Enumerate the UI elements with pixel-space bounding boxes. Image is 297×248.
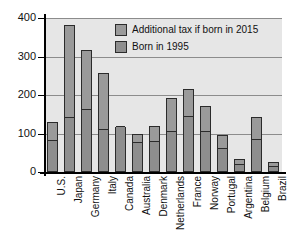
bar-segment-born-1995[interactable] — [150, 141, 159, 171]
x-axis-category-label: Brazil — [278, 176, 288, 201]
x-axis-category-label-wrap: Australia — [142, 176, 152, 215]
bar-segment-born-1995[interactable] — [133, 142, 142, 171]
bar-segment-additional-tax[interactable] — [166, 98, 177, 172]
bar-segment-born-1995[interactable] — [252, 139, 261, 171]
y-axis-line — [44, 14, 46, 176]
bar-segment-additional-tax[interactable] — [81, 50, 92, 172]
y-axis-tick — [38, 57, 44, 58]
bar-segment-born-1995[interactable] — [184, 116, 193, 171]
bar-group[interactable] — [98, 18, 109, 172]
x-axis-category-label: Belgium — [261, 176, 271, 212]
bar-segment-born-1995[interactable] — [99, 129, 108, 171]
x-axis-category-label-wrap: U.S. — [57, 176, 67, 195]
bar-segment-born-1995[interactable] — [167, 131, 176, 171]
y-axis-tick — [38, 172, 44, 173]
x-axis-category-label: U.S. — [57, 176, 67, 195]
x-axis-category-label-wrap: France — [193, 176, 203, 207]
bar-segment-additional-tax[interactable] — [200, 106, 211, 172]
x-axis-category-label: Italy — [108, 176, 118, 194]
bar-segment-additional-tax[interactable] — [234, 159, 245, 172]
bar-segment-additional-tax[interactable] — [268, 162, 279, 172]
legend-label-lower: Born in 1995 — [132, 41, 189, 52]
x-axis-line — [40, 172, 286, 174]
x-axis-category-label-wrap: Portugal — [227, 176, 237, 213]
x-axis-category-label-wrap: Canada — [125, 176, 135, 211]
x-axis-category-label: Canada — [125, 176, 135, 211]
x-axis-category-labels: U.S.JapanGermanyItalyCanadaAustraliaDenm… — [44, 176, 282, 248]
x-axis-category-label: Norway — [210, 176, 220, 210]
legend-label-upper: Additional tax if born in 2015 — [132, 24, 258, 35]
x-axis-category-label-wrap: Japan — [74, 176, 84, 203]
x-axis-category-label-wrap: Norway — [210, 176, 220, 210]
bar-segment-additional-tax[interactable] — [132, 134, 143, 173]
y-axis-tick-label: 0 — [2, 166, 36, 177]
x-axis-category-label-wrap: Netherlands — [176, 176, 186, 230]
x-axis-category-label: Portugal — [227, 176, 237, 213]
x-axis-category-label-wrap: Italy — [108, 176, 118, 194]
bar-segment-born-1995[interactable] — [116, 126, 125, 171]
bar-group[interactable] — [64, 18, 75, 172]
legend-swatch-icon-lower — [115, 41, 127, 53]
stacked-bar-chart: 0100200300400 U.S.JapanGermanyItalyCanad… — [0, 0, 297, 248]
legend-item-born-1995: Born in 1995 — [115, 40, 285, 53]
bar-segment-additional-tax[interactable] — [115, 127, 126, 172]
bar-segment-additional-tax[interactable] — [149, 126, 160, 172]
bar-segment-additional-tax[interactable] — [98, 73, 109, 172]
y-axis-tick — [38, 95, 44, 96]
bar-segment-born-1995[interactable] — [269, 166, 278, 171]
bar-segment-born-1995[interactable] — [82, 109, 91, 171]
x-axis-category-label-wrap: Belgium — [261, 176, 271, 212]
x-axis-category-label: France — [193, 176, 203, 207]
x-axis-category-label-wrap: Argentina — [244, 176, 254, 219]
x-axis-category-label-wrap: Denmark — [159, 176, 169, 217]
bar-segment-born-1995[interactable] — [201, 131, 210, 171]
x-axis-category-label: Japan — [74, 176, 84, 203]
bar-segment-born-1995[interactable] — [218, 148, 227, 171]
x-axis-category-label-wrap: Germany — [91, 176, 101, 217]
bar-segment-additional-tax[interactable] — [251, 117, 262, 172]
bar-group[interactable] — [81, 18, 92, 172]
y-axis-tick — [38, 18, 44, 19]
bar-segment-additional-tax[interactable] — [217, 135, 228, 172]
x-axis-category-label: Denmark — [159, 176, 169, 217]
bar-segment-born-1995[interactable] — [235, 164, 244, 171]
y-axis-tick-label: 100 — [2, 128, 36, 139]
bar-segment-additional-tax[interactable] — [47, 122, 58, 172]
x-axis-category-label-wrap: Brazil — [278, 176, 288, 201]
bar-segment-born-1995[interactable] — [48, 140, 57, 171]
y-axis-tick-label: 300 — [2, 51, 36, 62]
x-axis-category-label: Argentina — [244, 176, 254, 219]
legend-swatch-icon-upper — [115, 24, 127, 36]
x-axis-category-label: Australia — [142, 176, 152, 215]
bar-segment-additional-tax[interactable] — [183, 89, 194, 172]
y-axis-tick-label: 400 — [2, 12, 36, 23]
y-axis-tick-label: 200 — [2, 89, 36, 100]
x-axis-category-label: Netherlands — [176, 176, 186, 230]
y-axis-tick — [38, 134, 44, 135]
bar-segment-additional-tax[interactable] — [64, 25, 75, 172]
bar-segment-born-1995[interactable] — [65, 117, 74, 171]
legend-item-additional-tax: Additional tax if born in 2015 — [115, 23, 285, 36]
legend: Additional tax if born in 2015 Born in 1… — [115, 23, 285, 57]
y-axis-tick-labels: 0100200300400 — [0, 0, 36, 248]
bar-group[interactable] — [47, 18, 58, 172]
x-axis-category-label: Germany — [91, 176, 101, 217]
